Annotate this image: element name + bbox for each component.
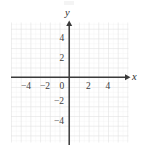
y-tick-label--2: −2 — [54, 97, 64, 107]
y-axis-label: y — [65, 8, 70, 19]
x-tick-label--4: −4 — [21, 82, 31, 92]
x-axis-label: x — [132, 72, 137, 83]
y-tick-label--4: −4 — [54, 117, 64, 127]
x-tick-label-2: 2 — [86, 82, 91, 92]
coordinate-plane-figure: y x −4 −2 0 2 4 4 2 −2 −4 — [0, 0, 147, 149]
origin-label: 0 — [60, 82, 65, 92]
x-tick-label-4: 4 — [106, 82, 111, 92]
x-tick-label--2: −2 — [40, 82, 50, 92]
y-tick-label-4: 4 — [60, 34, 65, 44]
coordinate-plane-svg — [0, 0, 147, 149]
y-tick-label-2: 2 — [60, 54, 65, 64]
